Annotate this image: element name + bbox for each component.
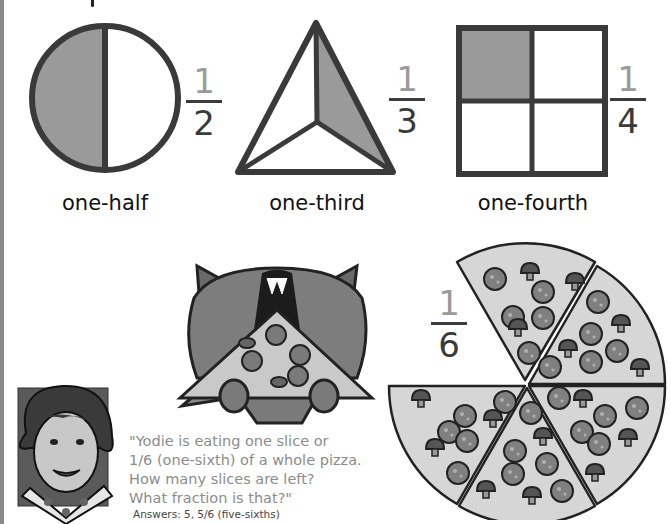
left-border-bar <box>0 0 4 524</box>
numerator: 1 <box>608 62 648 96</box>
label-one-half: one-half <box>15 191 195 215</box>
fraction-one-fourth: 1 4 <box>608 62 648 138</box>
teacher-quote: "Yodie is eating one slice or 1/6 (one-s… <box>129 432 379 508</box>
quote-line: How many slices are left? <box>129 470 379 489</box>
quote-line: "Yodie is eating one slice or <box>129 432 379 451</box>
quote-line: 1/6 (one-sixth) of a whole pizza. <box>129 451 379 470</box>
cropped-text-fragment <box>91 0 94 7</box>
numerator: 1 <box>387 62 427 96</box>
raccoon-eating-pizza-icon <box>172 258 382 428</box>
fraction-one-half: 1 2 <box>184 64 224 140</box>
label-one-fourth: one-fourth <box>443 191 623 215</box>
denominator: 6 <box>429 328 469 362</box>
quote-line: What fraction is that?" <box>129 489 379 508</box>
numerator: 1 <box>184 64 224 98</box>
teacher-avatar-icon <box>8 378 120 524</box>
label-one-third: one-third <box>227 191 407 215</box>
denominator: 4 <box>608 104 648 138</box>
numerator: 1 <box>429 286 469 320</box>
triangle-thirds-icon <box>228 18 398 178</box>
pizza-icon <box>385 238 667 520</box>
denominator: 2 <box>184 106 224 140</box>
square-quarters-icon <box>455 24 609 178</box>
fraction-one-sixth: 1 6 <box>429 286 469 362</box>
answers-text: Answers: 5, 5/6 (five-sixths) <box>133 508 280 520</box>
circle-halves-icon <box>28 22 184 176</box>
denominator: 3 <box>387 104 427 138</box>
fraction-one-third: 1 3 <box>387 62 427 138</box>
